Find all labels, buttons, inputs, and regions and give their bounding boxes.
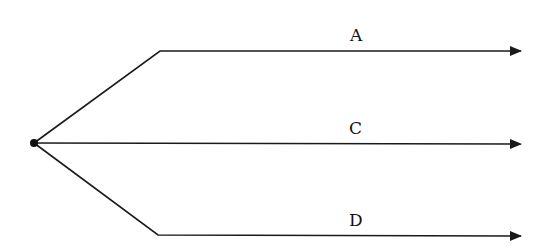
path-a-line bbox=[34, 51, 521, 143]
path-d-line bbox=[34, 143, 521, 236]
path-c-label: C bbox=[349, 118, 362, 138]
branching-diagram: A C D bbox=[0, 0, 535, 250]
origin-dot bbox=[30, 139, 38, 147]
path-d-label: D bbox=[349, 210, 363, 230]
path-a-label: A bbox=[349, 25, 363, 45]
path-c-line bbox=[34, 143, 521, 144]
